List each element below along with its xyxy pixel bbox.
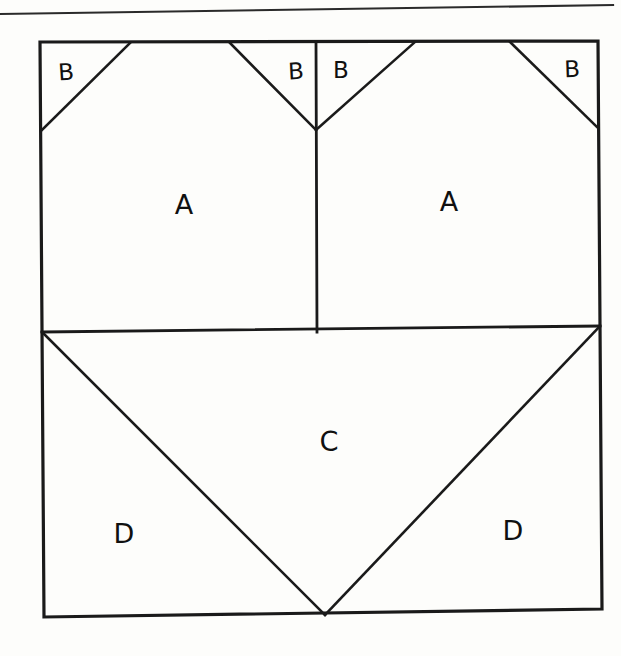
horizontal-divider: [42, 326, 600, 332]
label-d-left: D: [114, 518, 135, 549]
b4-diagonal: [510, 42, 598, 128]
label-a-left: A: [175, 189, 193, 220]
dissection-figure: [0, 0, 621, 656]
vertical-divider: [316, 42, 317, 332]
label-a-right: A: [440, 186, 458, 217]
b3-diagonal: [316, 42, 415, 130]
figure-canvas: B B B B A A C D D: [0, 0, 621, 656]
horizontal-rule: [0, 5, 613, 14]
label-c-center: C: [319, 425, 338, 456]
label-b-top-left: B: [57, 58, 75, 85]
b1-diagonal: [41, 43, 130, 131]
label-b-top-midleft: B: [287, 58, 304, 85]
label-b-top-midright: B: [333, 57, 349, 83]
c-left-diagonal: [42, 332, 325, 615]
b2-diagonal: [230, 43, 316, 130]
label-d-right: D: [503, 515, 524, 546]
label-b-top-right: B: [564, 56, 581, 83]
c-right-diagonal: [325, 326, 600, 615]
